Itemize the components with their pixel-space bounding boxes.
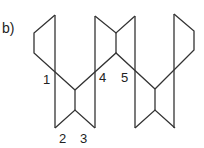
line-drawing <box>34 14 194 128</box>
label-2: 2 <box>59 131 66 146</box>
label-4: 4 <box>99 70 106 85</box>
lower-left-v <box>55 110 95 128</box>
lower-right-v <box>135 110 175 128</box>
label-5: 5 <box>121 70 128 85</box>
middle-diagonals <box>75 53 155 90</box>
part-label: b) <box>2 20 14 36</box>
upper-middle-v <box>95 16 135 33</box>
diagram-figure: b) 1 2 3 4 5 <box>0 0 204 148</box>
label-3: 3 <box>80 131 87 146</box>
label-1: 1 <box>43 72 50 87</box>
